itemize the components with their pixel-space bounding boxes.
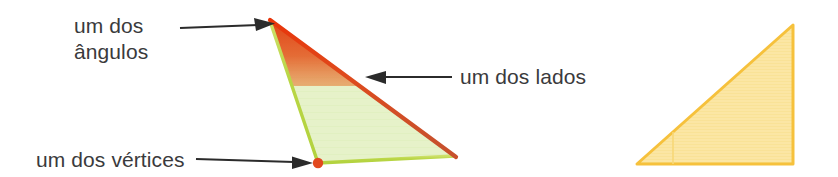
label-angle-line-2: ângulos — [74, 39, 148, 65]
highlighted-vertex-dot — [313, 158, 323, 168]
arrow-to-angle — [180, 18, 275, 31]
label-um-dos-lados: um dos lados — [460, 64, 586, 90]
annotated-triangle — [270, 20, 456, 168]
plain-triangle-fill — [637, 25, 793, 164]
arrow-to-side — [365, 71, 452, 84]
label-um-dos-vertices: um dos vértices — [36, 147, 185, 173]
plain-triangle — [637, 25, 793, 164]
arrow-to-vertex — [196, 157, 313, 170]
label-angle-line-1: um dos — [74, 13, 148, 39]
label-um-dos-angulos: um dos ângulos — [74, 13, 148, 65]
diagram-canvas: um dos ângulos um dos lados um dos vérti… — [0, 0, 838, 177]
